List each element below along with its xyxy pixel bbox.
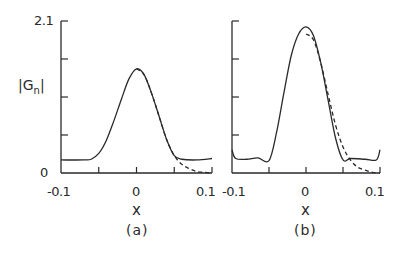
b-x-tick-min: -0.1 <box>222 185 245 198</box>
b-dashed-curve <box>306 34 380 173</box>
a-x-tick-mid: 0 <box>132 185 140 198</box>
b-solid-curve <box>232 27 380 162</box>
y-axis-label: |Gn| <box>18 78 45 96</box>
b-panel-tag: (b) <box>294 223 317 237</box>
a-x-tick-min: -0.1 <box>47 185 70 198</box>
a-x-tick-max: 0.1 <box>196 185 215 198</box>
a-x-axis-label: x <box>132 203 141 218</box>
a-solid-curve <box>61 69 212 160</box>
y-axis-label-end: | <box>40 77 45 93</box>
plot-canvas <box>0 0 401 257</box>
figure: 2.1 0 |Gn| -0.1 0 0.1 x (a) -0.1 0 0.1 x… <box>0 0 401 257</box>
b-x-tick-max: 0.1 <box>365 185 384 198</box>
y-axis-label-main: |G <box>18 77 34 93</box>
y-tick-max: 2.1 <box>34 14 53 27</box>
b-x-axis-label: x <box>301 203 310 218</box>
a-panel-tag: (a) <box>126 223 149 237</box>
b-x-tick-mid: 0 <box>301 185 309 198</box>
y-tick-zero: 0 <box>40 166 48 179</box>
